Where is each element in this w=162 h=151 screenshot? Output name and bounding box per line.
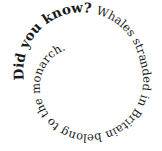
heading-text: Did you know? <box>10 0 98 81</box>
spiral-text: Did you know? Whales stranded in Britain… <box>10 0 154 145</box>
spiral-svg: Did you know? Whales stranded in Britain… <box>0 0 162 151</box>
spiral-text-graphic: Did you know? Whales stranded in Britain… <box>0 0 162 151</box>
